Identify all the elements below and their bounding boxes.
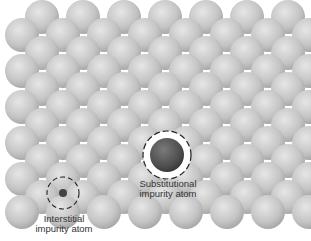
substitutional-label-line2: impurity atom	[134, 189, 202, 199]
interstitial-label-line2: impurity atom	[30, 224, 98, 234]
substitutional-impurity-atom	[150, 138, 184, 172]
substitutional-label: Substitutional impurity atom	[134, 179, 202, 199]
interstitial-impurity-atom	[59, 189, 67, 197]
host-atom	[210, 195, 244, 229]
host-atom	[251, 195, 285, 229]
host-atom	[169, 195, 203, 229]
lattice-diagram: Substitutional impurity atom Interstitia…	[0, 0, 311, 241]
interstitial-label: Interstitial impurity atom	[30, 214, 98, 234]
host-atom	[128, 195, 162, 229]
atom-lattice	[0, 0, 311, 241]
